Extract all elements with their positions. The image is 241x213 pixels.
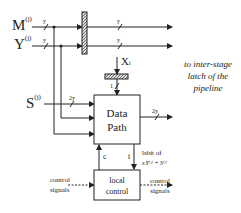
y-out-width: y	[117, 37, 120, 43]
pipeline-note: to inter-stage latch of the pipeline	[175, 58, 241, 94]
c-signal-label: c	[103, 153, 107, 161]
control-out-label: control signals	[150, 176, 170, 196]
x-input-label: Xi	[121, 56, 131, 67]
dp-out-width: 2y	[152, 108, 158, 114]
local-control-label: local control	[94, 175, 140, 197]
lsbit-label: lsbit of xᵢY⁽ʲ⁾ + S⁽ʲ⁾	[142, 148, 167, 168]
datapath-diagram: M(j) Y(j) S(j) Xi y y y y 2y 1 2y Data P…	[0, 0, 241, 213]
t-signal-label: t	[128, 153, 130, 161]
data-path-label: Data Path	[94, 106, 140, 134]
input-latch	[82, 12, 87, 54]
y-input-label: Y(j)	[14, 37, 31, 52]
y-in-width: y	[43, 37, 46, 43]
x-latch	[105, 74, 128, 79]
m-out-width: y	[117, 18, 120, 24]
s-input-label: S(j)	[26, 96, 41, 111]
s-in-width: 2y	[69, 95, 75, 101]
control-in-label: control signals	[50, 175, 70, 195]
m-input-label: M(j)	[12, 18, 32, 33]
x-in-width: 1	[110, 83, 113, 89]
m-in-width: y	[43, 18, 46, 24]
